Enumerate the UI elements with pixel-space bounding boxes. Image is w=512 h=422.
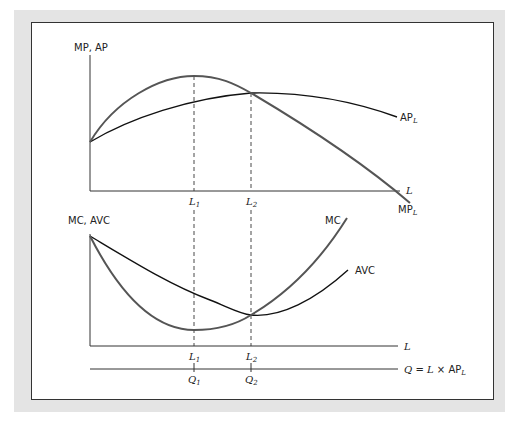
top-panel: MP, AP L APL MPL L1 L2 (74, 42, 418, 217)
bottom-panel: MC, AVC L Q = L × APL MC AVC L1 L2 (68, 210, 466, 387)
q1-label: Q1 (188, 374, 201, 387)
mc-curve-label: MC (325, 215, 341, 226)
bottom-y-axis-label: MC, AVC (68, 215, 110, 226)
ap-curve (90, 93, 397, 142)
mp-curve (90, 76, 410, 203)
q2-label: Q2 (245, 374, 258, 387)
top-x-axis-label: L (405, 185, 413, 196)
mp-curve-label: MPL (398, 204, 418, 217)
avc-curve-label: AVC (355, 265, 375, 276)
top-l1-label: L1 (188, 196, 200, 209)
top-l2-label: L2 (245, 196, 258, 209)
production-cost-diagram: MP, AP L APL MPL L1 L2 (0, 0, 512, 422)
avc-curve (90, 236, 348, 315)
bottom-l-axis-label: L (403, 341, 411, 352)
ap-curve-label: APL (400, 112, 418, 125)
bottom-l2-label: L2 (245, 351, 258, 364)
bottom-l1-label: L1 (188, 351, 200, 364)
mc-curve (90, 218, 347, 330)
bottom-q-axis-label: Q = L × APL (404, 364, 466, 377)
top-y-axis-label: MP, AP (74, 42, 108, 53)
